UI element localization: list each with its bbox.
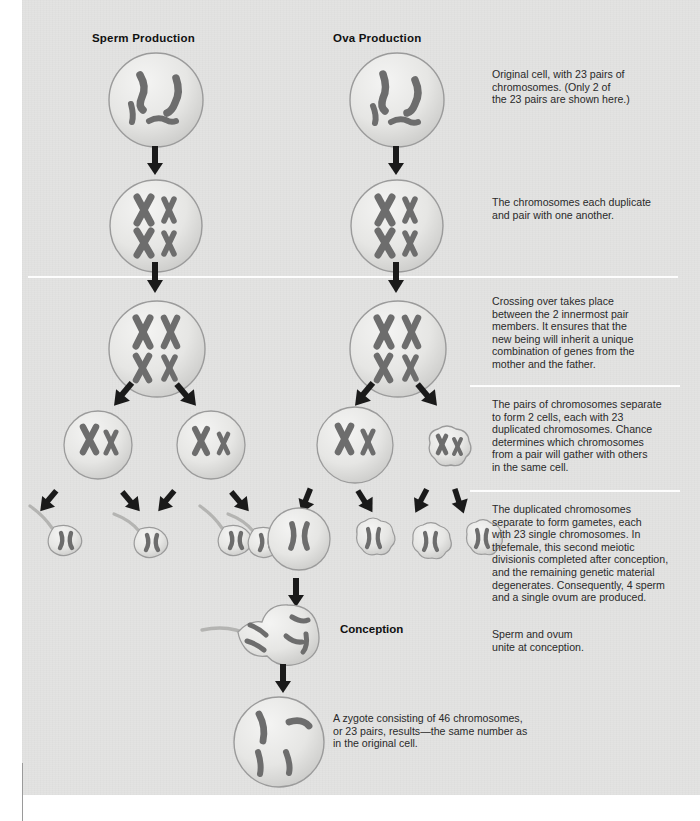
cell-meiosis1-sperm-b (170, 404, 254, 488)
arrow-ova-2 (387, 262, 405, 294)
arrow-ova-4-c (407, 488, 435, 516)
note-first-division: The pairs of chromosomes separate to for… (492, 398, 697, 474)
ovum-svg (262, 502, 338, 578)
column-title-sperm: Sperm Production (92, 32, 195, 44)
sperm-1-svg (24, 500, 102, 562)
divider-row-3 (470, 490, 680, 492)
arrow-sperm-2 (146, 262, 164, 294)
gamete-sperm-1 (24, 500, 102, 562)
note-original-cell: Original cell, with 23 pairs of chromoso… (492, 68, 692, 106)
gamete-ovum (262, 502, 338, 578)
gamete-sperm-2 (110, 502, 188, 564)
note-second-division: The duplicated chromosomes separate to f… (492, 503, 697, 604)
polar-body-2 (404, 515, 460, 571)
meiosis1-polarbody-svg (418, 418, 478, 478)
note-duplication: The chromosomes each duplicate and pair … (492, 196, 692, 221)
cell-meiosis1-ova-large (310, 400, 402, 492)
cell-meiosis1-polarbody (418, 418, 478, 478)
cell-meiosis1-sperm-a (57, 404, 141, 488)
arrow-sperm-1 (146, 146, 164, 176)
conception-label: Conception (340, 623, 403, 635)
column-title-ova: Ova Production (333, 32, 421, 44)
meiosis1-sperm-a-svg (57, 404, 141, 488)
note-conception: Sperm and ovum unite at conception. (492, 628, 692, 653)
meiosis1-ova-large-svg (310, 400, 402, 492)
cell-zygote (225, 690, 337, 796)
polar-body-2-svg (404, 515, 460, 571)
meiosis1-sperm-b-svg (170, 404, 254, 488)
meiosis-diagram-page: Sperm Production Ova Production (0, 0, 700, 821)
note-zygote: A zygote consisting of 46 chromosomes, o… (333, 712, 593, 750)
arrow-ova-4-d (446, 488, 474, 516)
polar-body-1-svg (347, 512, 403, 568)
divider-row-2 (470, 385, 680, 387)
arrow-ova-3-right (413, 380, 443, 410)
note-crossing-over: Crossing over takes place between the 2 … (492, 295, 692, 371)
page-margin-rule (22, 763, 23, 821)
zygote-svg (225, 690, 337, 796)
diagram-board: Sperm Production Ova Production (22, 0, 700, 795)
arrow-ova-1 (387, 146, 405, 176)
sperm-2-svg (110, 502, 188, 564)
polar-body-1 (347, 512, 403, 568)
